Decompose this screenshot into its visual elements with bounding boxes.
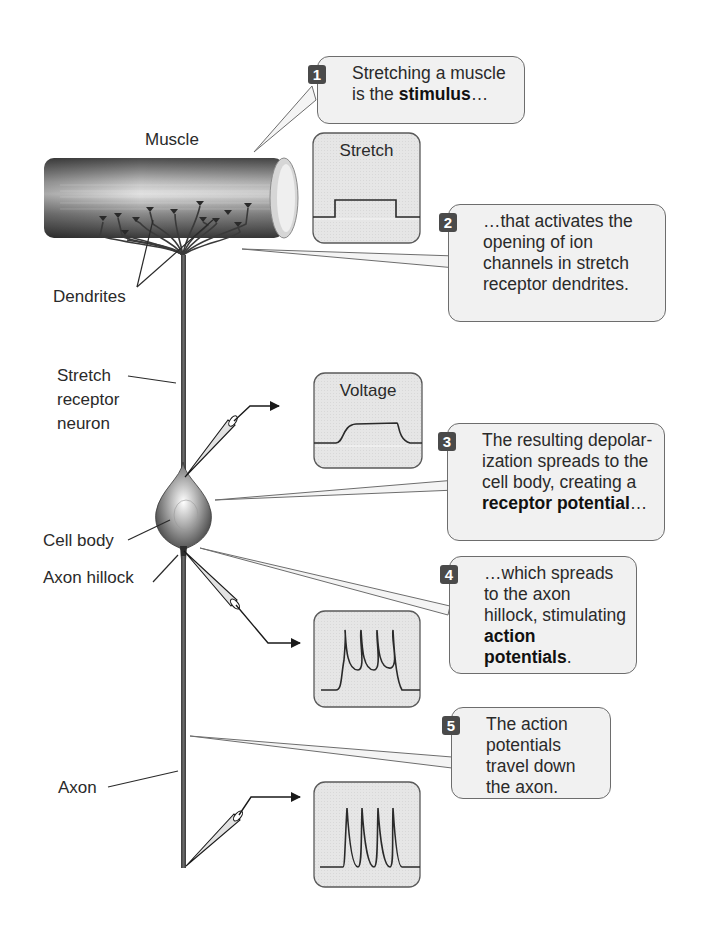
callout-4: 4 …which spreads to the axon hillock, st… [449, 556, 637, 674]
step-badge-1: 1 [308, 65, 326, 84]
cell-body-illustration [156, 462, 212, 551]
label-stretch-receptor-neuron-1: Stretch [57, 366, 111, 386]
callout-5: 5 The action potentials travel down the … [451, 707, 611, 799]
callout-1-text: Stretching a muscle is the stimulus… [352, 63, 506, 104]
pointer-1 [254, 86, 316, 152]
callout-2-text: …that activates the opening of ion chann… [483, 211, 633, 294]
muscle-illustration [44, 158, 298, 238]
electrode-3-icon [186, 797, 300, 866]
electrode-2-icon [184, 551, 300, 643]
label-axon: Axon [58, 778, 97, 798]
scope-voltage-title-box: Voltage [314, 373, 422, 403]
electrode-1-icon [185, 406, 279, 477]
label-stretch-receptor-neuron-2: receptor [57, 390, 119, 410]
stretch-receptor-neuron-fiber [181, 255, 186, 470]
axon-illustration [181, 556, 186, 868]
step-badge-5: 5 [442, 716, 460, 735]
scope-voltage-title: Voltage [314, 381, 422, 401]
label-axon-hillock: Axon hillock [43, 568, 134, 588]
step-badge-4: 4 [440, 565, 458, 584]
callout-5-text: The action potentials travel down the ax… [486, 714, 576, 797]
step-badge-2: 2 [439, 213, 457, 232]
pointer-2 [242, 249, 456, 268]
label-dendrites: Dendrites [53, 287, 126, 307]
pointer-5 [190, 736, 452, 768]
diagram-stretch-receptor: Stretch Voltage Muscle Dendrites Stretch… [0, 0, 705, 936]
label-muscle: Muscle [145, 130, 199, 150]
pointer-3 [215, 480, 456, 500]
label-stretch-receptor-neuron-3: neuron [57, 414, 110, 434]
step-badge-3: 3 [438, 432, 456, 451]
callout-3: 3 The resulting depolar-ization spreads … [447, 423, 665, 541]
scope-action-potentials-1 [314, 611, 420, 707]
scope-action-potentials-2 [314, 782, 420, 887]
callout-4-text: …which spreads to the axon hillock, stim… [484, 563, 626, 667]
callout-1: 1 Stretching a muscle is the stimulus… [317, 56, 525, 124]
callout-2: 2 …that activates the opening of ion cha… [448, 204, 666, 322]
label-cell-body: Cell body [43, 531, 114, 551]
callout-3-text: The resulting depolar-ization spreads to… [482, 430, 652, 513]
scope-stretch-title: Stretch [313, 141, 420, 161]
scope-stretch-title-box: Stretch [313, 133, 420, 163]
